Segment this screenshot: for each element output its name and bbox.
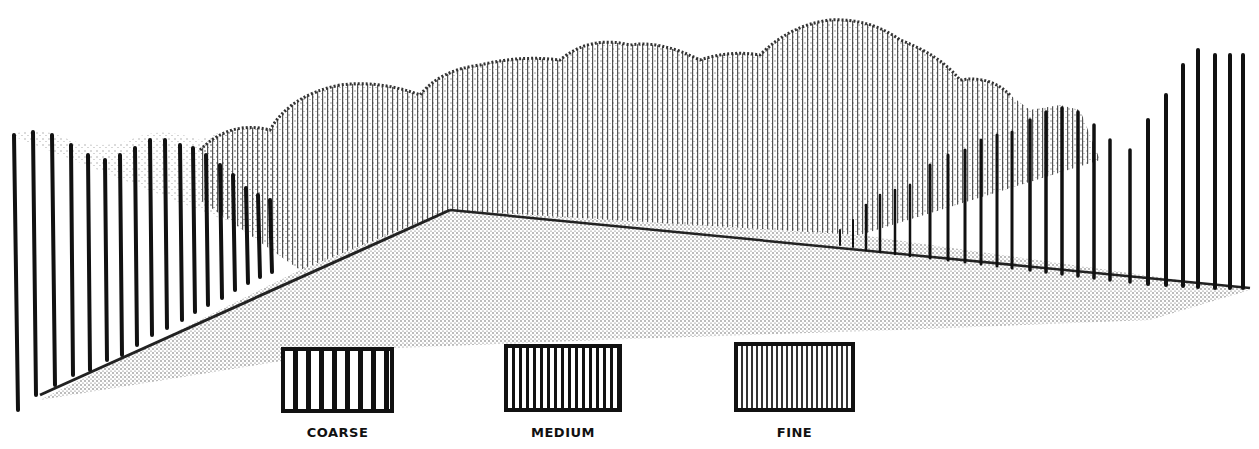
coarse-swatch	[281, 347, 394, 413]
medium-swatch	[504, 344, 622, 412]
legend-label-medium: MEDIUM	[504, 425, 622, 440]
fine-swatch	[734, 342, 855, 412]
legend-label-fine: FINE	[734, 425, 855, 440]
legend-label-coarse: COARSE	[281, 425, 394, 440]
fence-illustration	[0, 0, 1259, 449]
